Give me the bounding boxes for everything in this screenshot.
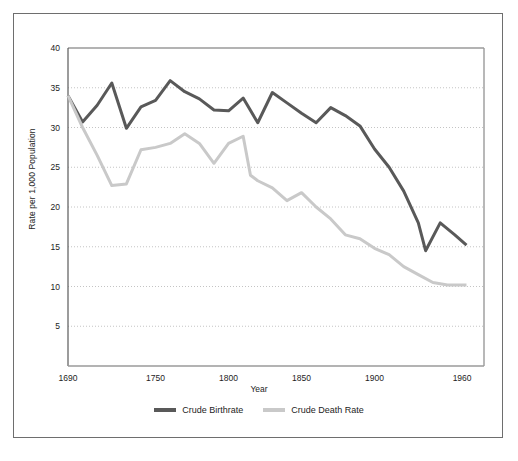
y-tick-label: 10 xyxy=(51,282,61,292)
figure-frame: 403530252015105 169017501800185019001960… xyxy=(13,13,503,438)
legend-item-label: Crude Death Rate xyxy=(291,405,364,415)
x-axis-tick-labels: 169017501800185019001960 xyxy=(59,373,472,383)
series-line-crude-birthrate xyxy=(68,81,466,251)
chart-legend: Crude Birthrate Crude Death Rate xyxy=(14,405,504,415)
data-series-group xyxy=(68,81,466,285)
x-tick-label: 1850 xyxy=(292,373,311,383)
y-tick-label: 15 xyxy=(51,242,61,252)
x-tick-label: 1690 xyxy=(59,373,78,383)
line-chart: 403530252015105 169017501800185019001960 xyxy=(14,14,504,439)
y-tick-label: 20 xyxy=(51,202,61,212)
x-tick-label: 1800 xyxy=(219,373,238,383)
legend-item-label: Crude Birthrate xyxy=(182,405,243,415)
y-tick-label: 25 xyxy=(51,162,61,172)
legend-swatch-icon xyxy=(263,408,285,412)
x-tick-label: 1900 xyxy=(365,373,384,383)
x-axis-title: Year xyxy=(14,384,504,394)
legend-swatch-icon xyxy=(154,408,176,412)
x-tick-label: 1960 xyxy=(453,373,472,383)
y-tick-label: 35 xyxy=(51,83,61,93)
legend-item-crude-birthrate[interactable]: Crude Birthrate xyxy=(154,405,243,415)
legend-item-crude-death-rate[interactable]: Crude Death Rate xyxy=(263,405,364,415)
y-tick-label: 30 xyxy=(51,123,61,133)
y-tick-label: 5 xyxy=(55,321,60,331)
y-tick-label: 40 xyxy=(51,43,61,53)
x-tick-label: 1750 xyxy=(146,373,165,383)
y-axis-title: Rate per 1,000 Population xyxy=(27,94,37,264)
chart-area: 403530252015105 169017501800185019001960… xyxy=(14,14,504,439)
y-axis-tick-labels: 403530252015105 xyxy=(51,43,61,331)
